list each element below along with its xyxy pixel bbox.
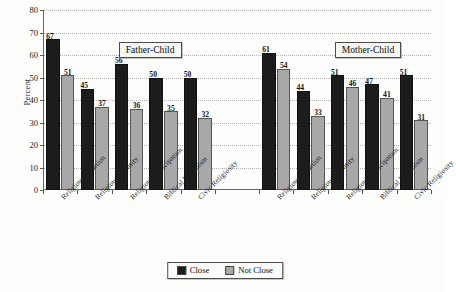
bar-value-label: 56 bbox=[115, 57, 123, 65]
y-axis-tick-label: 30 bbox=[30, 117, 39, 127]
x-axis-tick-mark bbox=[259, 190, 260, 194]
bar-value-label: 32 bbox=[201, 111, 209, 119]
legend-entry: Close bbox=[177, 265, 210, 275]
bar: 46 bbox=[346, 87, 360, 191]
x-axis-tick-mark bbox=[328, 190, 329, 194]
x-axis-tick-mark bbox=[293, 190, 294, 194]
gridline bbox=[43, 10, 431, 11]
legend-entry: Not Close bbox=[225, 265, 273, 275]
legend-swatch-icon bbox=[225, 266, 234, 275]
bar: 37 bbox=[95, 107, 109, 190]
x-axis-tick-mark bbox=[362, 190, 363, 194]
y-axis-tick-label: 50 bbox=[30, 72, 39, 82]
bar-value-label: 41 bbox=[383, 91, 391, 99]
y-axis-tick-label: 60 bbox=[30, 50, 39, 60]
y-axis-tick-mark bbox=[40, 145, 44, 146]
y-axis-tick-label: 40 bbox=[30, 95, 39, 105]
bar-value-label: 35 bbox=[167, 105, 175, 113]
bar: 41 bbox=[380, 98, 394, 190]
x-axis-tick-mark bbox=[181, 190, 182, 194]
bar: 54 bbox=[277, 69, 291, 191]
bar-value-label: 37 bbox=[98, 100, 106, 108]
legend-swatch-icon bbox=[177, 266, 186, 275]
y-axis-tick-label: 70 bbox=[30, 27, 39, 37]
x-axis-tick-mark bbox=[431, 190, 432, 194]
bar-value-label: 31 bbox=[417, 114, 425, 122]
bar-value-label: 47 bbox=[365, 78, 373, 86]
y-axis-tick-label: 20 bbox=[30, 140, 39, 150]
bar-value-label: 51 bbox=[400, 69, 408, 77]
panel-label-mother-child: Mother-Child bbox=[335, 42, 402, 58]
bar: 36 bbox=[130, 109, 144, 190]
x-axis-tick-mark bbox=[215, 190, 216, 194]
y-axis-tick-mark bbox=[40, 168, 44, 169]
bar-value-label: 61 bbox=[262, 46, 270, 54]
bar-value-label: 51 bbox=[331, 69, 339, 77]
y-axis-tick-mark bbox=[40, 10, 44, 11]
bar: 67 bbox=[46, 39, 60, 190]
x-axis-tick-mark bbox=[397, 190, 398, 194]
bar-value-label: 54 bbox=[280, 62, 288, 70]
bar-value-label: 67 bbox=[46, 33, 54, 41]
y-axis-title: Percent bbox=[22, 62, 32, 122]
bar-value-label: 36 bbox=[133, 102, 141, 110]
chart-legend: CloseNot Close bbox=[167, 262, 283, 279]
bar: 33 bbox=[311, 116, 325, 190]
y-axis-tick-label: 10 bbox=[30, 162, 39, 172]
y-axis-tick-mark bbox=[40, 100, 44, 101]
y-axis-tick-mark bbox=[40, 78, 44, 79]
bar-value-label: 50 bbox=[149, 71, 157, 79]
y-axis-tick-mark bbox=[40, 55, 44, 56]
bar-value-label: 45 bbox=[81, 82, 89, 90]
x-axis-tick-mark bbox=[146, 190, 147, 194]
bar-value-label: 33 bbox=[314, 109, 322, 117]
panel-label-father-child: Father-Child bbox=[119, 42, 182, 58]
bar: 51 bbox=[61, 75, 75, 190]
x-axis-tick-mark bbox=[43, 190, 44, 194]
bar-value-label: 50 bbox=[184, 71, 192, 79]
legend-label: Not Close bbox=[238, 265, 273, 275]
legend-label: Close bbox=[190, 265, 210, 275]
x-axis-tick-mark bbox=[112, 190, 113, 194]
y-axis-tick-mark bbox=[40, 123, 44, 124]
y-axis-tick-label: 80 bbox=[30, 5, 39, 15]
bar-value-label: 46 bbox=[349, 80, 357, 88]
bar-value-label: 51 bbox=[64, 69, 72, 77]
bar: 61 bbox=[262, 53, 276, 190]
y-axis-tick-mark bbox=[40, 33, 44, 34]
x-axis-tick-mark bbox=[77, 190, 78, 194]
gridline bbox=[43, 33, 431, 34]
bar-value-label: 44 bbox=[297, 84, 305, 92]
y-axis-tick-label: 0 bbox=[34, 185, 38, 195]
